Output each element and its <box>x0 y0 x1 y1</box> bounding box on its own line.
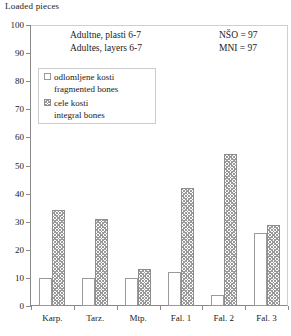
x-tick-mark <box>160 306 161 310</box>
chart-legend: odlomljene kosti fragmented bones cele k… <box>38 68 156 124</box>
x-tick-label: Fal. 2 <box>213 313 234 323</box>
x-tick-label: Tarz. <box>86 313 104 323</box>
x-tick-mark <box>245 306 246 310</box>
y-tick-label: 70 <box>0 104 24 114</box>
y-tick-label: 30 <box>0 217 24 227</box>
x-tick-label: Fal. 3 <box>256 313 277 323</box>
bar-integral <box>95 219 108 306</box>
bar-integral <box>138 269 151 306</box>
annotation-adultne: Adultne, plasti 6-7 <box>70 30 141 40</box>
y-tick-label: 60 <box>0 132 24 142</box>
legend-item-fragmented: odlomljene kosti <box>44 72 114 82</box>
annotation-adultes: Adultes, layers 6-7 <box>70 43 142 53</box>
bar-fragmented <box>82 278 95 306</box>
y-tick-label: 100 <box>0 20 24 30</box>
bar-fragmented <box>168 272 181 306</box>
bar-integral <box>267 225 280 306</box>
x-tick-label: Mtp. <box>129 313 146 323</box>
bar-integral <box>224 154 237 306</box>
y-tick-label: 10 <box>0 273 24 283</box>
y-tick-label: 20 <box>0 245 24 255</box>
y-tick-label: 40 <box>0 189 24 199</box>
y-tick-label: 50 <box>0 161 24 171</box>
x-tick-mark <box>202 306 203 310</box>
bar-fragmented <box>125 278 138 306</box>
y-tick-label: 0 <box>0 301 24 311</box>
bar-fragmented <box>211 295 224 306</box>
x-tick-mark <box>288 306 289 310</box>
x-tick-label: Karp. <box>42 313 62 323</box>
x-tick-mark <box>117 306 118 310</box>
bar-integral <box>52 210 65 306</box>
bar-fragmented <box>254 233 267 306</box>
bar-integral <box>181 188 194 306</box>
legend-label-integral: cele kosti <box>54 98 88 108</box>
legend-sublabel-fragmented: fragmented bones <box>54 84 118 94</box>
y-axis-title: Loaded pieces <box>5 1 59 11</box>
legend-sublabel-integral: integral bones <box>54 110 105 120</box>
bar-chart: Loaded pieces 0102030405060708090100 Kar… <box>0 0 291 336</box>
annotation-mni: MNI = 97 <box>219 43 257 53</box>
legend-item-integral: cele kosti <box>44 98 88 108</box>
hatched-grey-swatch-icon <box>44 99 51 106</box>
y-tick-label: 90 <box>0 48 24 58</box>
x-tick-mark <box>74 306 75 310</box>
annotation-nso: NŠO = 97 <box>219 30 258 40</box>
y-tick-label: 80 <box>0 76 24 86</box>
x-tick-mark <box>31 306 32 310</box>
white-outline-swatch-icon <box>44 73 51 80</box>
bar-fragmented <box>39 278 52 306</box>
x-tick-label: Fal. 1 <box>171 313 192 323</box>
legend-label-fragmented: odlomljene kosti <box>54 72 114 82</box>
